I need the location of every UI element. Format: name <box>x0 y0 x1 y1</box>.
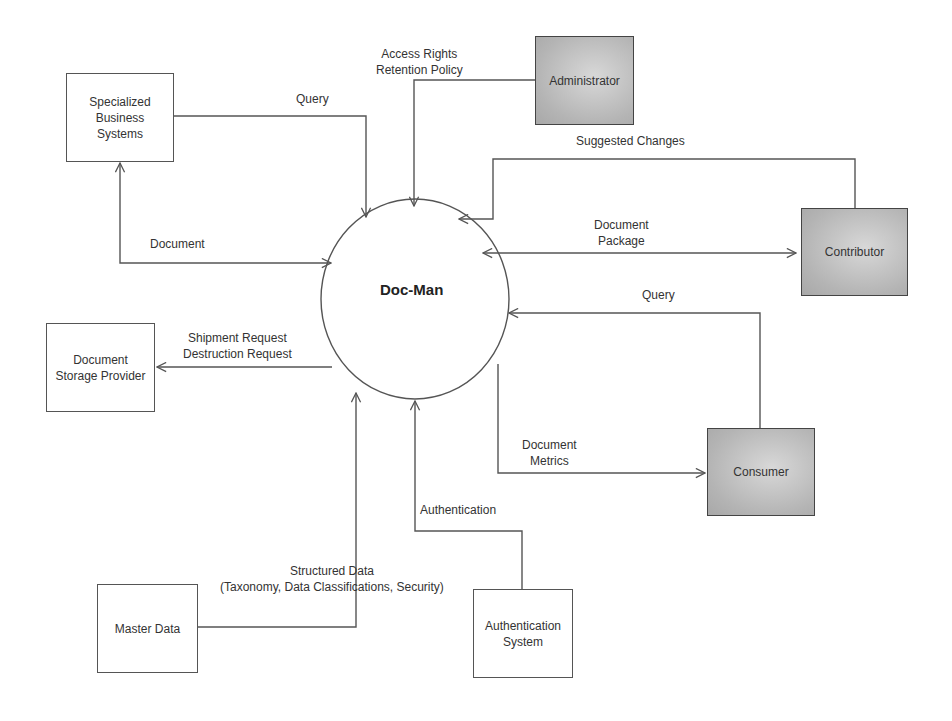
entity-consumer[interactable]: Consumer <box>707 428 815 516</box>
entity-label: Contributor <box>825 244 884 260</box>
flow-label-admin-access: Access Rights Retention Policy <box>376 46 463 78</box>
flow-label-consumer-query: Query <box>642 287 675 303</box>
entity-label: Administrator <box>549 73 620 89</box>
entity-label: Consumer <box>733 464 788 480</box>
doc-man-process-circle[interactable] <box>321 199 509 399</box>
flow-label-consumer-metrics: Document Metrics <box>522 437 577 469</box>
entity-master-data[interactable]: Master Data <box>97 584 198 673</box>
entity-label: Specialized Business Systems <box>89 94 150 142</box>
doc-man-label: Doc-Man <box>380 281 443 298</box>
entity-document-storage-provider[interactable]: Document Storage Provider <box>46 323 155 412</box>
entity-label: Document Storage Provider <box>55 352 145 384</box>
entity-administrator[interactable]: Administrator <box>535 36 634 125</box>
flow-label-storage-requests: Shipment Request Destruction Request <box>183 330 292 362</box>
flow-label-auth-authentication: Authentication <box>420 502 496 518</box>
flow-label-sbs-query: Query <box>296 91 329 107</box>
entity-contributor[interactable]: Contributor <box>801 208 908 296</box>
flow-label-sbs-document: Document <box>150 236 205 252</box>
flow-sbs-query-arrow <box>173 116 366 217</box>
flow-consumer-query-arrow <box>509 313 760 428</box>
flow-label-contrib-suggested: Suggested Changes <box>576 133 685 149</box>
entity-authentication-system[interactable]: Authentication System <box>473 589 573 678</box>
entity-label: Master Data <box>115 621 180 637</box>
flow-admin-access-arrow <box>414 80 535 206</box>
entity-label: Authentication System <box>485 618 561 650</box>
flow-contrib-suggested-arrow <box>459 159 855 219</box>
flow-label-contrib-package: Document Package <box>594 217 649 249</box>
entity-specialized-business-systems[interactable]: Specialized Business Systems <box>66 73 174 162</box>
flow-auth-authentication-arrow <box>415 401 522 589</box>
flow-label-master-structured: Structured Data (Taxonomy, Data Classifi… <box>220 563 444 595</box>
